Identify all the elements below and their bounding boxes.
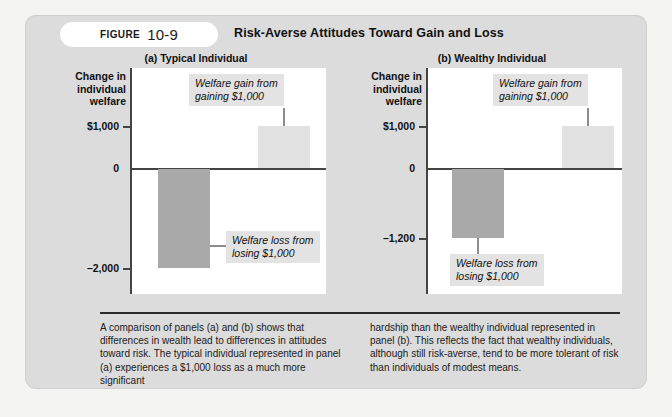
- caption-column-left: A comparison of panels (a) and (b) shows…: [100, 321, 350, 387]
- panel-a-tick-label-1000: $1,000: [87, 120, 119, 132]
- figure-number-badge: Figure 10-9: [60, 22, 218, 47]
- figure-card: Figure 10-9 Risk-Averse Attitudes Toward…: [26, 16, 646, 388]
- figure-caption: A comparison of panels (a) and (b) shows…: [100, 312, 620, 387]
- panel-b-gain-callout: Welfare gain from gaining $1,000: [493, 74, 588, 106]
- gain-callout-line-1: Welfare gain from: [499, 77, 582, 90]
- panel-b-gain-leader: [587, 108, 589, 126]
- panel-b-y-axis: [426, 68, 428, 294]
- axis-caption-line-1: Change in: [336, 70, 422, 83]
- caption-divider: [100, 312, 620, 314]
- panels-row: (a) Typical Individual Change in individ…: [26, 52, 646, 304]
- loss-callout-line-1: Welfare loss from: [456, 257, 538, 270]
- panel-typical-individual: (a) Typical Individual Change in individ…: [34, 52, 332, 304]
- panel-a-tick-label-zero: 0: [113, 162, 119, 174]
- panel-a-y-axis: [130, 68, 132, 294]
- figure-title: Risk-Averse Attitudes Toward Gain and Lo…: [234, 26, 504, 40]
- panel-a-tick-label-neg2000: –2,000: [87, 262, 119, 274]
- axis-caption-line-3: welfare: [40, 95, 126, 108]
- panel-b-plot-area: $1,000 0 –1,200 W: [426, 68, 622, 294]
- caption-columns: A comparison of panels (a) and (b) shows…: [100, 321, 620, 387]
- axis-caption-line-3: welfare: [336, 95, 422, 108]
- figure-header: Figure 10-9 Risk-Averse Attitudes Toward…: [26, 22, 646, 48]
- axis-caption-line-2: individual: [40, 83, 126, 96]
- loss-callout-line-2: losing $1,000: [232, 247, 314, 260]
- panel-a-loss-bar: [158, 169, 210, 268]
- panel-b-tick-label-zero: 0: [409, 162, 415, 174]
- loss-callout-line-1: Welfare loss from: [232, 234, 314, 247]
- panel-b-title: (b) Wealthy Individual: [330, 52, 628, 64]
- panel-b-gain-bar: [562, 126, 614, 168]
- figure-badge-number: 10-9: [147, 26, 178, 43]
- axis-caption-line-1: Change in: [40, 70, 126, 83]
- panel-b-loss-leader: [477, 238, 479, 254]
- figure-badge-word: Figure: [100, 29, 140, 40]
- loss-callout-line-2: losing $1,000: [456, 270, 538, 283]
- gain-callout-line-2: gaining $1,000: [499, 90, 582, 103]
- panel-a-loss-callout: Welfare loss from losing $1,000: [226, 231, 320, 263]
- panel-wealthy-individual: (b) Wealthy Individual Change in individ…: [330, 52, 628, 304]
- panel-b-axis-caption: Change in individual welfare: [336, 70, 422, 108]
- panel-b-tick-label-neg1200: –1,200: [383, 232, 415, 244]
- panel-a-gain-callout: Welfare gain from gaining $1,000: [189, 74, 284, 106]
- axis-caption-line-2: individual: [336, 83, 422, 96]
- gain-callout-line-1: Welfare gain from: [195, 77, 278, 90]
- caption-column-right: hardship than the wealthy individual rep…: [370, 321, 620, 387]
- panel-a-loss-leader: [210, 245, 226, 247]
- panel-a-gain-bar: [258, 126, 310, 168]
- page-background: Figure 10-9 Risk-Averse Attitudes Toward…: [0, 0, 672, 417]
- panel-a-plot-area: $1,000 0 –2,000 W: [130, 68, 326, 294]
- panel-a-axis-caption: Change in individual welfare: [40, 70, 126, 108]
- panel-b-loss-callout: Welfare loss from losing $1,000: [450, 254, 544, 286]
- panel-b-tick-label-1000: $1,000: [383, 120, 415, 132]
- panel-a-gain-leader: [283, 108, 285, 126]
- gain-callout-line-2: gaining $1,000: [195, 90, 278, 103]
- panel-b-loss-bar: [452, 169, 504, 238]
- panel-a-title: (a) Typical Individual: [34, 52, 332, 64]
